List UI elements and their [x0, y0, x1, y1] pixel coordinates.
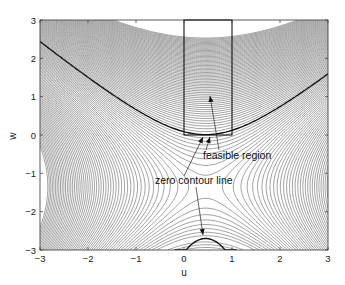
y-tick-label: 2	[31, 53, 36, 64]
y-tick-label: −3	[25, 245, 36, 256]
x-tick-label: −2	[83, 253, 94, 264]
y-tick-label: 1	[31, 91, 36, 102]
y-tick-label: −2	[25, 206, 36, 217]
y-tick-label: 3	[31, 15, 36, 26]
y-axis-label: w	[7, 132, 18, 141]
zero-contour-label: zero contour line	[155, 174, 233, 186]
y-tick-label: −1	[25, 168, 36, 179]
contour-figure: −3−2−101233210−1−2−3 u w feasible region…	[0, 0, 345, 285]
x-tick-label: 3	[325, 253, 330, 264]
feasible-region-label: feasible region	[203, 149, 271, 161]
x-tick-label: 2	[277, 253, 282, 264]
y-tick-label: 0	[31, 130, 36, 141]
x-tick-label: −3	[35, 253, 46, 264]
x-tick-label: −1	[131, 253, 142, 264]
annotation-arrows	[184, 96, 219, 235]
x-tick-label: 0	[181, 253, 186, 264]
x-axis-label: u	[181, 267, 187, 278]
x-tick-label: 1	[229, 253, 234, 264]
